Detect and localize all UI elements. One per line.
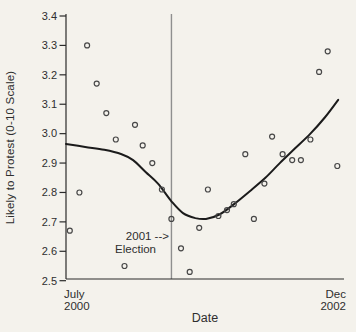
lowess-curve — [66, 100, 338, 219]
y-tick-label: 2.6 — [42, 245, 57, 257]
data-point — [197, 225, 202, 230]
data-point — [251, 216, 256, 221]
data-point — [67, 228, 72, 233]
data-point — [104, 111, 109, 116]
y-tick-label: 3.3 — [42, 39, 57, 51]
data-point — [113, 137, 118, 142]
x-tick-start-line2: 2000 — [64, 301, 90, 313]
data-point — [243, 152, 248, 157]
data-point — [290, 158, 295, 163]
y-tick-label: 3.2 — [42, 69, 57, 81]
y-tick-label: 3.4 — [42, 10, 57, 22]
x-tick-end-line2: 2002 — [320, 301, 346, 313]
data-point — [77, 190, 82, 195]
data-point — [335, 164, 340, 169]
data-point — [298, 158, 303, 163]
data-point — [317, 69, 322, 74]
data-point — [122, 264, 127, 269]
chart-figure: 2.52.62.72.82.93.03.13.23.33.4 Likely to… — [0, 0, 356, 332]
chart-canvas: 2.52.62.72.82.93.03.13.23.33.4 — [0, 0, 356, 332]
x-tick-end-line1: Dec — [320, 289, 346, 301]
data-point — [140, 143, 145, 148]
y-axis-title: Likely to Protest (0-10 Scale) — [4, 28, 19, 268]
data-point — [262, 181, 267, 186]
y-tick-label: 2.7 — [42, 216, 57, 228]
y-tick-label: 3.0 — [42, 127, 57, 139]
data-point — [94, 81, 99, 86]
data-point — [179, 246, 184, 251]
y-tick-label: 2.5 — [42, 275, 57, 287]
y-tick-label: 2.8 — [42, 186, 57, 198]
data-point — [205, 187, 210, 192]
x-axis-title: Date — [180, 311, 230, 325]
data-point — [308, 137, 313, 142]
x-tick-start-line1: July — [64, 289, 90, 301]
x-tick-start: July 2000 — [64, 289, 90, 312]
x-tick-end: Dec 2002 — [320, 289, 346, 312]
data-point — [187, 269, 192, 274]
election-annotation-line2: Election — [115, 243, 156, 255]
y-tick-label: 2.9 — [42, 157, 57, 169]
data-point — [325, 49, 330, 54]
data-point — [85, 43, 90, 48]
y-tick-label: 3.1 — [42, 98, 57, 110]
data-point — [270, 134, 275, 139]
election-annotation-line1: 2001 --> — [126, 230, 169, 242]
data-point — [280, 152, 285, 157]
data-point — [150, 161, 155, 166]
data-point — [133, 122, 138, 127]
